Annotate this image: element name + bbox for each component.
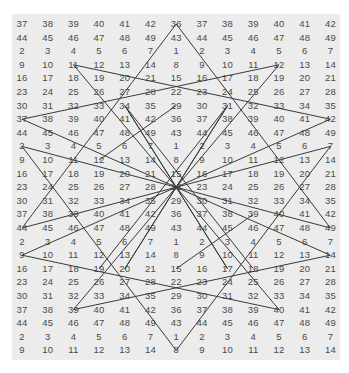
grid-cell: 8 [163,59,189,70]
grid-cell: 15 [163,168,189,179]
grid-cell: 10 [35,344,61,355]
grid-cell: 47 [86,317,112,328]
grid-cell: 49 [317,127,343,138]
grid-cell: 11 [60,344,86,355]
grid-cell: 40 [266,113,292,124]
grid-cell: 6 [292,140,318,151]
grid-cell: 21 [317,168,343,179]
grid-cell: 23 [189,276,215,287]
grid-cell: 37 [189,208,215,219]
grid-cell: 42 [317,113,343,124]
grid-cell: 11 [240,344,266,355]
grid-cell: 16 [189,72,215,83]
grid-cell: 16 [189,263,215,274]
grid-cell: 27 [112,181,138,192]
grid-cell: 17 [35,168,61,179]
grid-cell: 6 [112,331,138,342]
grid-cell: 27 [112,86,138,97]
grid-cell: 7 [317,236,343,247]
grid-cell: 5 [86,140,112,151]
grid-cell: 6 [112,236,138,247]
grid-cell: 33 [86,195,112,206]
grid-cell: 48 [292,32,318,43]
grid-cell: 32 [60,100,86,111]
grid-cell: 44 [189,127,215,138]
grid-cell: 35 [138,290,164,301]
grid-cell: 42 [138,208,164,219]
grid-cell: 1 [163,140,189,151]
grid-cell: 16 [9,72,35,83]
grid-cell: 39 [240,304,266,315]
grid-cell: 47 [266,222,292,233]
grid-cell: 49 [138,32,164,43]
grid-cell: 23 [9,86,35,97]
grid-cell: 4 [60,140,86,151]
grid-cell: 33 [266,100,292,111]
grid-cell: 13 [292,344,318,355]
grid-cell: 43 [163,317,189,328]
grid-cell: 9 [189,154,215,165]
grid-cell: 20 [292,168,318,179]
grid-cell: 45 [215,317,241,328]
grid-cell: 9 [9,344,35,355]
grid-cell: 48 [112,127,138,138]
grid-cell: 8 [163,344,189,355]
grid-cell: 33 [266,290,292,301]
grid-cell: 30 [9,195,35,206]
grid-cell: 20 [292,263,318,274]
grid-cell: 8 [163,249,189,260]
grid-cell: 44 [9,222,35,233]
grid-cell: 31 [215,195,241,206]
grid-cell: 39 [60,304,86,315]
grid-cell: 38 [35,208,61,219]
grid-cell: 10 [215,344,241,355]
grid-cell: 10 [215,249,241,260]
grid-cell: 39 [60,113,86,124]
grid-cell: 31 [35,100,61,111]
grid-cell: 45 [35,127,61,138]
grid-cell: 5 [266,331,292,342]
grid-cell: 28 [138,276,164,287]
grid-cell: 37 [189,18,215,29]
grid-cell: 49 [138,317,164,328]
grid-cell: 19 [266,263,292,274]
grid-cell: 20 [112,263,138,274]
grid-cell: 18 [60,263,86,274]
grid-cell: 5 [266,236,292,247]
grid-cell: 42 [317,18,343,29]
grid-cell: 4 [60,331,86,342]
grid-cell: 42 [138,18,164,29]
grid-cell: 37 [9,18,35,29]
grid-cell: 47 [266,32,292,43]
grid-cell: 8 [163,154,189,165]
grid-cell: 49 [138,222,164,233]
grid-cell: 2 [189,331,215,342]
grid-cell: 2 [9,45,35,56]
grid-cell: 48 [112,32,138,43]
grid-cell: 3 [35,140,61,151]
grid-cell: 39 [240,208,266,219]
grid-cell: 18 [240,263,266,274]
grid-cell: 48 [112,317,138,328]
grid-cell: 38 [35,113,61,124]
grid-cell: 9 [9,59,35,70]
grid-cell: 49 [317,32,343,43]
grid-cell: 7 [317,140,343,151]
grid-cell: 10 [35,249,61,260]
grid-cell: 1 [163,45,189,56]
grid-cell: 46 [60,32,86,43]
grid-cell: 39 [60,18,86,29]
grid-cell: 29 [163,195,189,206]
grid-cell: 2 [9,236,35,247]
grid-cell: 11 [60,154,86,165]
grid-cell: 5 [86,45,112,56]
grid-cell: 25 [60,276,86,287]
grid-cell: 25 [240,181,266,192]
grid-cell: 21 [317,72,343,83]
grid-cell: 36 [163,113,189,124]
grid-cell: 6 [112,140,138,151]
grid-cell: 48 [292,317,318,328]
grid-cell: 16 [189,168,215,179]
grid-cell: 36 [163,304,189,315]
grid-cell: 29 [163,100,189,111]
